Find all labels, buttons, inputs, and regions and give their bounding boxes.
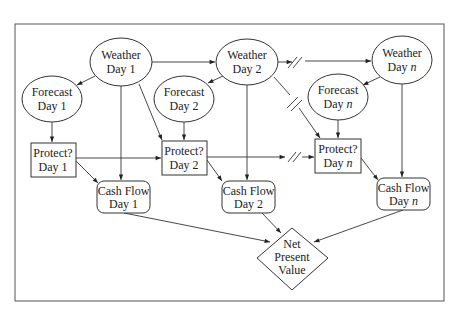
svg-text:Day n: Day n: [388, 60, 417, 74]
svg-text:Day n: Day n: [389, 194, 418, 208]
node-label: Weather: [101, 48, 141, 62]
node-weather-day-2: Weather Day 2: [216, 39, 278, 85]
svg-text:Day 1: Day 1: [109, 197, 138, 211]
node-net-present-value: Net Present Value: [257, 228, 328, 290]
node-label: Forecast: [318, 83, 359, 97]
svg-text:Day 2: Day 2: [233, 62, 262, 76]
svg-text:Day n: Day n: [324, 156, 353, 170]
svg-text:Day 2: Day 2: [170, 99, 199, 113]
node-protect-day-n: Protect? Day n: [315, 139, 361, 173]
node-label: Cash Flow: [378, 181, 430, 195]
edge-weather1-forecast1: [77, 76, 95, 85]
svg-text:Day 1: Day 1: [39, 160, 68, 174]
edge-cash-n-npv: [314, 210, 403, 242]
node-protect-day-2: Protect? Day 2: [162, 141, 207, 175]
svg-text:Day 2: Day 2: [234, 197, 263, 211]
edge-weather2-forecast2: [208, 76, 223, 83]
svg-text:Day 2: Day 2: [170, 158, 199, 172]
node-label: Forecast: [164, 85, 205, 99]
node-label: Forecast: [32, 85, 73, 99]
svg-text:Day n: Day n: [324, 97, 353, 111]
break-mark: [287, 97, 298, 108]
node-label: Weather: [227, 48, 267, 62]
svg-text:Value: Value: [278, 263, 305, 277]
edge-protect1-cash1: [75, 160, 98, 183]
svg-text:Net: Net: [283, 237, 301, 251]
influence-diagram: Weather Day 1 Weather Day 2 Weather Day …: [0, 0, 459, 311]
node-label: Cash Flow: [98, 184, 150, 198]
node-label: Protect?: [33, 146, 72, 160]
svg-text:Day 1: Day 1: [38, 99, 67, 113]
edge-weather-n-forecast-n: [363, 77, 380, 85]
node-cash-flow-day-n: Cash Flow Day n: [377, 178, 430, 210]
edge-weather2-protect-n: [274, 77, 290, 95]
node-cash-flow-day-2: Cash Flow Day 2: [222, 181, 275, 213]
edge-cash2-npv: [262, 213, 281, 233]
node-forecast-day-n: Forecast Day n: [308, 74, 368, 120]
svg-text:Day 1: Day 1: [107, 62, 136, 76]
break-mark: [293, 152, 301, 162]
node-cash-flow-day-1: Cash Flow Day 1: [97, 181, 150, 213]
node-label: Protect?: [318, 142, 357, 156]
edge-cash1-npv: [124, 213, 270, 242]
break-mark: [288, 57, 297, 68]
node-weather-day-n: Weather Day n: [372, 36, 432, 84]
node-label: Protect?: [164, 144, 203, 158]
break-mark: [293, 57, 302, 68]
edge-protect2-cash2: [207, 160, 222, 181]
break-mark: [288, 152, 296, 162]
node-protect-day-1: Protect? Day 1: [31, 143, 76, 177]
svg-text:Present: Present: [274, 250, 310, 264]
node-weather-day-1: Weather Day 1: [90, 38, 152, 86]
node-forecast-day-1: Forecast Day 1: [22, 76, 82, 122]
node-label: Weather: [382, 46, 422, 60]
node-forecast-day-2: Forecast Day 2: [154, 76, 214, 122]
node-label: Cash Flow: [223, 184, 275, 198]
edge-protect-n-cash-n: [361, 158, 378, 180]
